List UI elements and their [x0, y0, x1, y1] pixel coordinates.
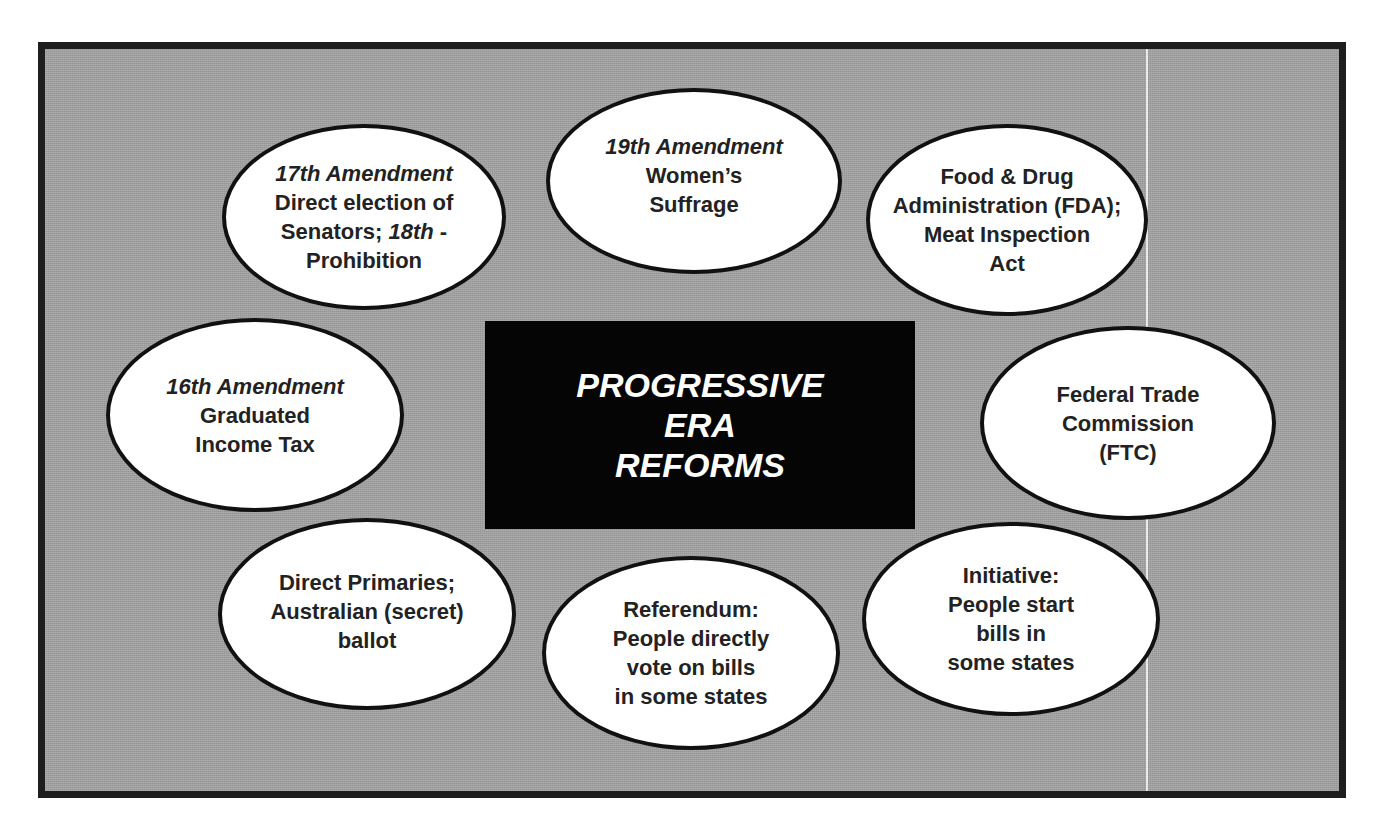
- oval-line: Women’s: [646, 161, 743, 190]
- oval-line: vote on bills: [627, 653, 755, 682]
- diagram-frame: 17th Amendment Direct election of Senato…: [38, 42, 1346, 798]
- oval-line: (FTC): [1099, 438, 1156, 467]
- oval-line: Meat Inspection: [924, 220, 1090, 249]
- title-line: PROGRESSIVE: [576, 365, 824, 405]
- oval-line: Graduated: [200, 401, 310, 430]
- oval-line: Act: [989, 249, 1024, 278]
- oval-line: 19th Amendment: [605, 132, 783, 161]
- oval-line: Direct Primaries;: [279, 568, 455, 597]
- oval-line: ballot: [338, 626, 397, 655]
- oval-line: Income Tax: [195, 430, 314, 459]
- title-box: PROGRESSIVE ERA REFORMS: [485, 321, 915, 529]
- oval-line: 17th Amendment: [275, 159, 453, 188]
- title-line: ERA: [664, 405, 736, 445]
- oval-line: some states: [947, 648, 1074, 677]
- oval-16th-amendment: 16th Amendment Graduated Income Tax: [106, 318, 404, 512]
- oval-line: Federal Trade: [1056, 380, 1199, 409]
- oval-line: Administration (FDA);: [893, 191, 1122, 220]
- oval-17th-18th-amendment: 17th Amendment Direct election of Senato…: [222, 124, 506, 310]
- oval-referendum: Referendum: People directly vote on bill…: [542, 556, 840, 750]
- oval-line: People directly: [613, 624, 770, 653]
- oval-line: Referendum:: [623, 595, 759, 624]
- oval-fda: Food & Drug Administration (FDA); Meat I…: [866, 124, 1148, 316]
- oval-line: Australian (secret): [270, 597, 463, 626]
- oval-line: bills in: [976, 619, 1046, 648]
- oval-line: Commission: [1062, 409, 1194, 438]
- oval-line: Initiative:: [963, 561, 1060, 590]
- oval-line: Direct election of: [275, 188, 453, 217]
- oval-line: People start: [948, 590, 1074, 619]
- oval-line: in some states: [615, 682, 768, 711]
- oval-initiative: Initiative: People start bills in some s…: [862, 522, 1160, 716]
- oval-direct-primaries: Direct Primaries; Australian (secret) ba…: [218, 518, 516, 710]
- oval-line: Senators; 18th -: [281, 217, 447, 246]
- oval-line: Suffrage: [649, 190, 738, 219]
- oval-line: Food & Drug: [940, 162, 1073, 191]
- title-line: REFORMS: [615, 445, 785, 485]
- oval-ftc: Federal Trade Commission (FTC): [980, 326, 1276, 520]
- oval-line: 16th Amendment: [166, 372, 344, 401]
- oval-19th-amendment: 19th Amendment Women’s Suffrage: [546, 88, 842, 274]
- oval-line: Prohibition: [306, 246, 422, 275]
